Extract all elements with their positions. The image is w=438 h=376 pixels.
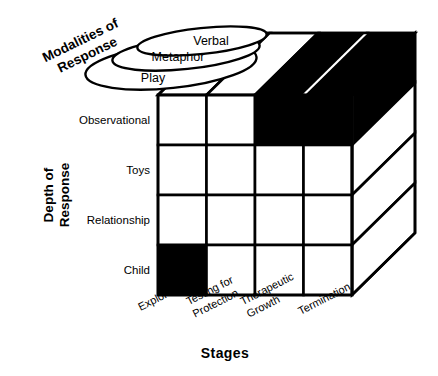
cube-diagram-svg: Verbal Metaphor Play Modalities of Respo… — [0, 0, 438, 376]
front-cell-toys-termination — [304, 145, 353, 195]
front-face — [158, 95, 352, 295]
stages-axis-label: Stages — [201, 345, 249, 361]
front-cell-toys-therapeutic-growth — [255, 145, 304, 195]
row-label-toys: Toys — [126, 164, 150, 176]
modality-label-verbal: Verbal — [193, 34, 228, 48]
row-label-child: Child — [124, 264, 150, 276]
modality-label-metaphor: Metaphor — [152, 50, 205, 64]
depth-axis-label-line1: Depth of — [41, 167, 56, 222]
front-cell-toys-testing-for-protection — [207, 145, 256, 195]
depth-axis-label-line2: Response — [57, 162, 72, 227]
cube-diagram: Verbal Metaphor Play Modalities of Respo… — [0, 0, 438, 376]
front-cell-relationship-exploratory — [158, 195, 207, 245]
modality-label-play: Play — [141, 71, 166, 85]
front-cell-observational-exploratory — [158, 95, 207, 145]
front-cell-relationship-testing-for-protection — [207, 195, 256, 245]
row-label-relationship: Relationship — [87, 214, 150, 226]
front-cell-toys-exploratory — [158, 145, 207, 195]
front-cell-observational-testing-for-protection — [207, 95, 256, 145]
row-label-observational: Observational — [79, 114, 150, 126]
depth-axis-label: Depth of Response — [41, 162, 72, 227]
front-cell-observational-termination — [304, 95, 353, 145]
front-cell-relationship-therapeutic-growth — [255, 195, 304, 245]
front-cell-relationship-termination — [304, 195, 353, 245]
front-cell-observational-therapeutic-growth — [255, 95, 304, 145]
